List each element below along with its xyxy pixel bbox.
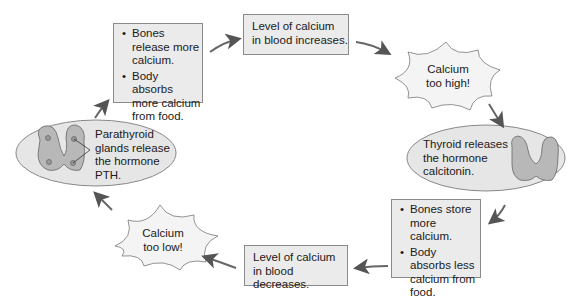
thyroid-line-1: Thyroid releases — [423, 138, 508, 152]
calcium-low-label: Calcium too low! — [133, 227, 193, 254]
parathyroid-line-2: glands release — [95, 142, 170, 156]
parathyroid-line-3: the hormone — [95, 155, 170, 169]
parathyroid-line-1: Parathyroid — [95, 128, 170, 142]
bones-store-box: Bones store more calcium. Body absorbs l… — [391, 199, 481, 278]
thyroid-label: Thyroid releases the hormone calcitonin. — [423, 138, 508, 179]
decrease-line-2: in blood decreases. — [253, 265, 347, 292]
thyroid-line-2: the hormone — [423, 152, 508, 166]
low-line-2: too low! — [133, 241, 193, 255]
low-line-1: Calcium — [133, 227, 193, 241]
calcium-decreases-box: Level of calcium in blood decreases. — [244, 245, 348, 286]
bullet-bones-release: Bones release more calcium. — [132, 27, 202, 68]
calcium-high-label: Calcium too high! — [418, 63, 478, 90]
bullet-body-absorbs-more: Body absorbs more calcium from food. — [132, 70, 202, 124]
thyroid-line-3: calcitonin. — [423, 165, 508, 179]
parathyroid-line-4: PTH. — [95, 169, 170, 183]
calcium-increases-box: Level of calcium in blood increases. — [243, 14, 349, 55]
increase-line-2: in blood increases. — [252, 34, 348, 48]
bullet-body-absorbs-less: Body absorbs less calcium from food. — [410, 246, 480, 300]
bullet-bones-store: Bones store more calcium. — [410, 203, 480, 244]
high-line-1: Calcium — [418, 63, 478, 77]
parathyroid-label: Parathyroid glands release the hormone P… — [95, 128, 170, 182]
high-line-2: too high! — [418, 77, 478, 91]
decrease-line-1: Level of calcium — [253, 251, 347, 265]
increase-line-1: Level of calcium — [252, 20, 348, 34]
bones-release-box: Bones release more calcium. Body absorbs… — [113, 23, 203, 103]
